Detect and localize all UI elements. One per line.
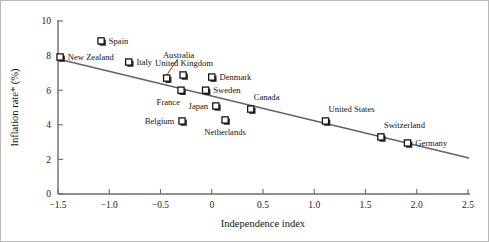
x-tick-label: 2.5 [462,200,474,210]
x-tick-label: 1.0 [308,200,320,210]
data-point-label: Germany [415,138,448,148]
marker-square [178,87,184,93]
x-axis-title: Independence index [221,218,306,229]
data-point-label: United States [329,104,376,114]
data-point-label: Belgium [145,116,175,126]
data-point-label: Netherlands [204,127,246,137]
data-point-label: Italy [136,57,152,67]
marker-square [248,106,254,112]
axes: 0246810−1.5−1.0−0.500.51.01.52.02.5 [42,16,475,210]
marker-square [98,38,104,44]
data-point: Netherlands [204,117,246,137]
data-point-label: France [157,97,181,107]
x-tick-label: −1.5 [49,200,66,210]
data-point-label: Spain [109,36,129,46]
marker-square [209,74,215,80]
data-point: Spain [98,36,129,46]
marker-square [164,75,170,81]
y-tick-label: 2 [46,155,51,165]
data-point-label: Denmark [219,72,252,82]
y-tick-label: 6 [46,86,51,96]
data-points: New ZealandSpainItalyAustraliaUnited Kin… [57,36,448,148]
marker-square [180,72,186,78]
data-point: Belgium [145,116,187,126]
data-point-label: Japan [189,101,209,111]
data-point-label: New Zealand [68,52,115,62]
marker-square [179,118,185,124]
x-tick-label: 1.5 [360,200,372,210]
marker-square [378,134,384,140]
marker-square [126,59,132,65]
scatter-plot: 0246810−1.5−1.0−0.500.51.01.52.02.5 New … [1,1,489,242]
data-point: Japan [189,101,221,111]
marker-square [203,87,209,93]
y-axis-title: Inflation rate* (%) [9,68,21,147]
marker-square [222,117,228,123]
data-point-label: Switzerland [384,120,426,130]
data-point: Denmark [209,72,252,82]
data-point: United States [322,104,375,126]
x-tick-label: −1.0 [101,200,118,210]
x-tick-label: −0.5 [152,200,169,210]
marker-square [404,140,410,146]
chart-figure: 0246810−1.5−1.0−0.500.51.01.52.02.5 New … [0,0,489,242]
marker-square [57,54,63,60]
data-point: Germany [404,138,447,148]
y-tick-label: 4 [46,120,51,130]
x-tick-label: 0 [209,200,214,210]
data-point: Italy [126,57,153,67]
data-point: Sweden [203,85,242,95]
data-point-label: Canada [254,92,280,102]
marker-square [322,118,328,124]
marker-square [213,103,219,109]
x-tick-label: 2.0 [411,200,423,210]
data-point-label: United Kingdom [155,58,213,68]
data-point-label: Sweden [213,85,241,95]
x-tick-label: 0.5 [257,200,269,210]
data-point: France [157,87,186,107]
y-tick-label: 10 [42,16,52,26]
y-tick-label: 0 [46,189,51,199]
y-tick-label: 8 [46,51,51,61]
